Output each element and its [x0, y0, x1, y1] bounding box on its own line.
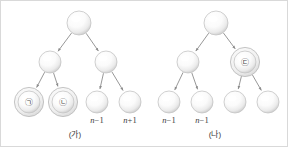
node-annotation-na-ann-1: n−1	[162, 115, 175, 125]
tree-node-na-l1	[177, 51, 199, 73]
diagram-caption-tree-ga: (가)	[69, 130, 82, 139]
node-sphere	[257, 91, 279, 113]
node-label-ga-l2b: ㉡	[59, 98, 67, 107]
tree-diagram-figure: ㉠㉡㉢ n−1n+1n−1n−1 (가)(나)	[0, 0, 288, 147]
tree-edge-na-r1-to-na-r2a	[238, 76, 241, 89]
tree-node-na-r2b	[257, 91, 279, 113]
tree-node-ga-r2a	[86, 91, 108, 113]
tree-edge-na-l1-to-na-l2b	[192, 73, 198, 89]
tree-node-na-r1: ㉢	[230, 47, 259, 76]
tree-edge-na-root-to-na-l1	[196, 33, 209, 51]
tree-edge-na-r1-to-na-r2b	[252, 75, 261, 91]
node-annotation-ga-ann-1: n−1	[90, 115, 103, 125]
node-highlight	[181, 55, 190, 61]
nodes-layer: ㉠㉡㉢	[14, 11, 279, 117]
node-sphere	[204, 11, 228, 35]
node-label-na-r1: ㉢	[241, 58, 249, 67]
captions-layer: (가)(나)	[69, 130, 222, 139]
node-sphere	[119, 91, 141, 113]
node-sphere	[224, 91, 246, 113]
node-sphere	[67, 11, 91, 35]
node-label-ga-l2a: ㉠	[25, 98, 33, 107]
node-highlight	[99, 55, 108, 61]
tree-edge-ga-r1-to-ga-r2a	[100, 73, 104, 89]
node-sphere	[95, 51, 117, 73]
node-highlight	[71, 16, 81, 23]
edges-layer	[37, 33, 262, 90]
tree-edge-ga-l1-to-ga-l2a	[37, 72, 45, 87]
node-annotation-ga-ann-2: n+1	[123, 115, 136, 125]
tree-node-ga-l2b: ㉡	[48, 87, 77, 116]
node-sphere	[39, 51, 61, 73]
tree-node-ga-r2b	[119, 91, 141, 113]
annotations-layer: n−1n+1n−1n−1	[90, 115, 208, 125]
node-highlight	[195, 95, 204, 101]
node-sphere	[158, 91, 180, 113]
tree-node-na-l2a	[158, 91, 180, 113]
tree-edge-ga-root-to-ga-l1	[58, 33, 71, 51]
diagram-canvas: ㉠㉡㉢ n−1n+1n−1n−1 (가)(나)	[1, 1, 288, 147]
node-sphere	[177, 51, 199, 73]
tree-edge-na-l1-to-na-l2a	[175, 72, 183, 89]
tree-node-ga-r1	[95, 51, 117, 73]
node-highlight	[90, 95, 99, 101]
tree-node-na-r2a	[224, 91, 246, 113]
node-highlight	[43, 55, 52, 61]
tree-edge-ga-r1-to-ga-r2b	[112, 72, 123, 91]
tree-node-ga-root	[67, 11, 91, 35]
node-highlight	[228, 95, 237, 101]
node-highlight	[261, 95, 270, 101]
node-highlight	[162, 95, 171, 101]
node-highlight	[208, 16, 218, 23]
tree-edge-ga-root-to-ga-r1	[86, 33, 98, 51]
node-highlight	[123, 95, 132, 101]
tree-edge-ga-l1-to-ga-l2b	[54, 73, 58, 86]
node-annotation-na-ann-2: n−1	[195, 115, 208, 125]
diagram-caption-tree-na: (나)	[209, 130, 222, 139]
node-sphere	[86, 91, 108, 113]
tree-node-na-l2b	[191, 91, 213, 113]
tree-node-ga-l2a: ㉠	[14, 87, 43, 116]
tree-node-na-root	[204, 11, 228, 35]
tree-edge-na-root-to-na-r1	[223, 33, 235, 49]
node-sphere	[191, 91, 213, 113]
tree-node-ga-l1	[39, 51, 61, 73]
